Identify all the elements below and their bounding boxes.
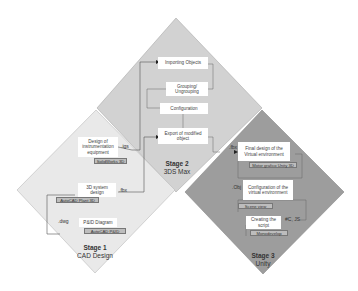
pid-diagram-box: P&ID Diagram	[79, 218, 117, 227]
dwg-format: .dwg	[58, 218, 69, 224]
autocad-pid-tool: AutoCAD P&ID	[84, 228, 126, 234]
3d-system-design-box: 3D system design	[78, 183, 116, 197]
obj-format: .Obj	[232, 184, 241, 190]
final-design-box: Final design of the Virtual environment	[238, 142, 290, 161]
scene-view-tool: Scene view	[238, 203, 273, 209]
autocad-plant3d-tool: AutoCAD Plant 3D	[56, 197, 99, 203]
stage2-label: Stage 2 3DS Max	[155, 160, 199, 176]
motor-grafico-tool: Motor grafico Unity 3D	[249, 162, 297, 168]
stage2-title: Stage 2	[155, 160, 199, 168]
configuration-box: Configuration	[160, 103, 208, 114]
igs-format: .igs	[121, 143, 129, 149]
stage3-subtitle: Unity	[256, 260, 271, 267]
solidworks-tool: SolidWorks 3D	[94, 158, 127, 164]
grouping-box: Grouping/ Ungrouping	[166, 82, 208, 96]
stage1-title: Stage 1	[66, 244, 124, 252]
creating-script-box: Creating the script	[246, 216, 281, 229]
virtual-env-config-box: Configuration of the virtual environment	[243, 180, 293, 200]
stage2-subtitle: 3DS Max	[164, 168, 191, 175]
cs-js-format: #C, JS	[285, 216, 300, 222]
diagram-canvas	[0, 0, 358, 291]
instrumentation-design-box: Design of instrumentation equipment	[78, 137, 118, 157]
stage1-subtitle: CAD Design	[77, 252, 113, 259]
monodevelop-tool: Monodevelop	[250, 230, 288, 236]
stage3-title: Stage 3	[245, 252, 281, 260]
importing-objects-box: Importing Objects	[158, 57, 208, 69]
fbx-format-stage1: .fbx	[119, 187, 127, 193]
fbx-format-stage3: .fbx	[229, 144, 237, 150]
export-box: Export of modified object	[158, 128, 208, 144]
stage3-label: Stage 3 Unity	[245, 252, 281, 268]
stage1-label: Stage 1 CAD Design	[66, 244, 124, 260]
